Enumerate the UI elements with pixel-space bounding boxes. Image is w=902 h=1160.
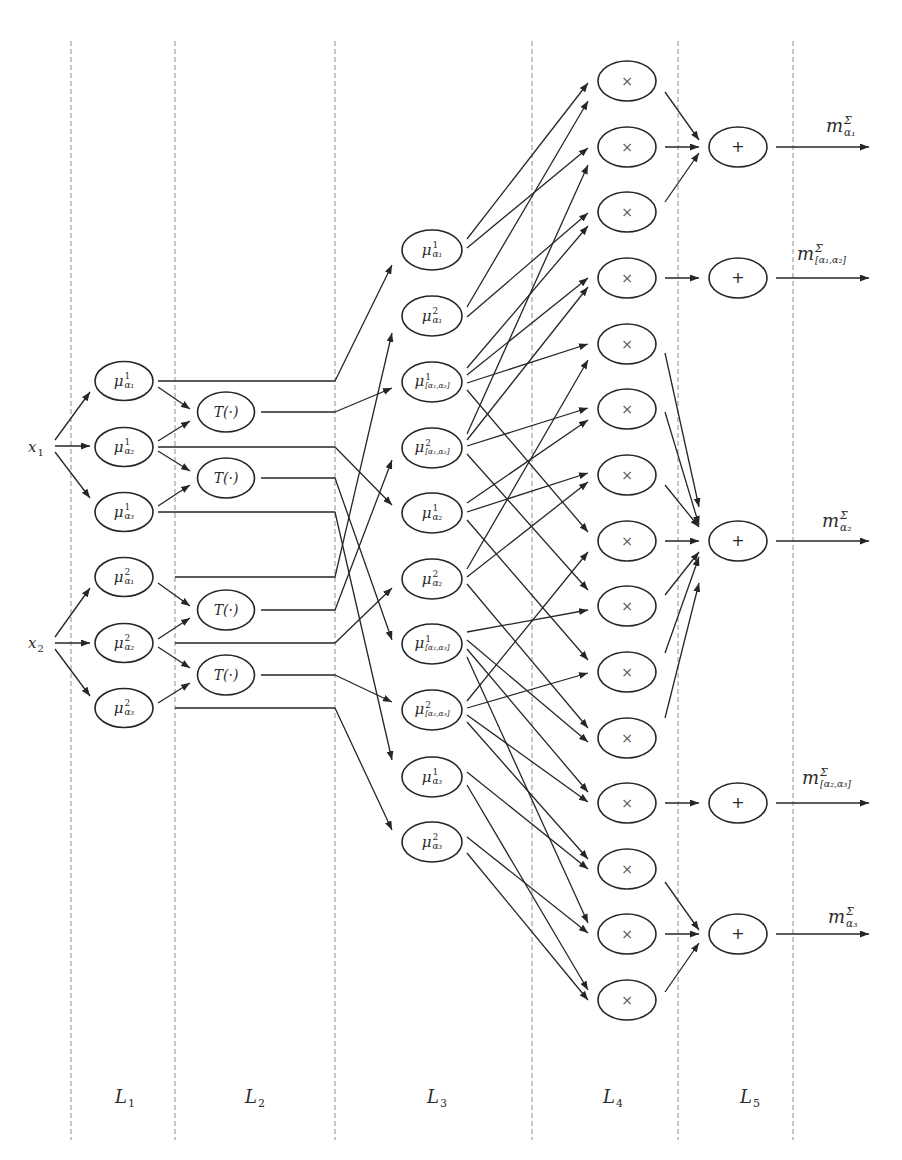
arrow-mu2-a2-to-t4 [158,647,190,668]
product-node-ellipse [598,586,656,626]
transform-node-ellipse [198,590,255,630]
arrow-mu1-a2-to-t1 [158,421,190,441]
fuzzy-node-mu2-a2 [95,624,153,663]
fuzzy-node-n1 [402,296,462,336]
fuzzy-node-n4 [402,493,462,533]
arrow-mu1-a3-to-n8 [158,512,392,760]
arrow-x2-to-mu2-a3 [55,649,90,696]
product-node-ellipse [598,258,656,298]
product-node-ellipse [598,980,656,1020]
arrow-n2-to-p3 [467,278,588,375]
sum-node-ellipse [709,258,767,298]
arrow-n8-to-p12 [467,772,588,869]
arrow-t3-to-n3 [261,460,392,610]
arrow-mu2-a3-to-n9 [175,708,392,830]
sum-node-ellipse [709,127,767,167]
arrow-n4-to-p6 [467,473,588,512]
edges-L1-to-L2 [158,387,190,703]
fuzzy-node-n9 [402,822,462,862]
product-node-ellipse [598,324,656,364]
fuzzy-node-n5 [402,559,462,599]
arrow-n0-to-p1 [467,148,588,248]
product-node-ellipse [598,783,656,823]
product-node-ellipse [598,521,656,561]
product-node-p1 [598,127,656,167]
product-node-p10 [598,718,656,758]
arrow-mu2-a1-to-n1 [175,333,392,577]
arrow-p0-to-q0 [665,92,699,140]
fuzzy-node-ellipse [402,362,462,402]
arrow-x1-to-mu1-a3 [55,452,90,498]
arrow-mu2-a1-to-t3 [158,583,190,606]
fuzzy-node-ellipse [402,559,462,599]
arrow-n9-to-p13 [467,837,588,933]
sum-node-ellipse [709,914,767,954]
product-node-p13 [598,914,656,954]
fuzzy-node-n3 [402,428,462,468]
arrow-p2-to-q0 [665,153,699,202]
sum-node-q1 [709,258,767,298]
product-node-ellipse [598,61,656,101]
transform-node-ellipse [198,458,255,498]
sum-node-q2 [709,521,767,561]
arrow-n5-to-p6 [467,482,588,577]
arrow-p8-to-q2 [665,552,699,595]
product-node-p8 [598,586,656,626]
fuzzy-node-mu1-a1 [95,362,153,401]
arrow-mu2-a3-to-t4 [158,683,190,703]
product-node-p0 [598,61,656,101]
fuzzy-node-ellipse [95,624,153,663]
sum-node-q3 [709,783,767,823]
fuzzy-node-mu2-a1 [95,558,153,597]
fuzzy-node-mu2-a3 [95,689,153,728]
product-node-ellipse [598,718,656,758]
edges-inputs-to-L1 [55,392,90,696]
product-node-p12 [598,849,656,889]
arrow-x1-to-mu1-a1 [55,392,90,440]
sum-node-q0 [709,127,767,167]
arrow-t4-to-n7 [261,675,392,702]
product-node-ellipse [598,192,656,232]
sum-node-ellipse [709,783,767,823]
transform-node-t4 [198,655,255,695]
fuzzy-node-ellipse [402,428,462,468]
sum-node-ellipse [709,521,767,561]
arrow-mu1-a2-to-n4 [158,447,392,505]
diagram-canvas [0,0,902,1160]
fuzzy-node-ellipse [402,230,462,270]
arrow-n8-to-p14 [467,785,588,990]
product-node-ellipse [598,652,656,692]
fuzzy-node-n7 [402,690,462,730]
edges-L3-to-L4 [467,83,588,1000]
fuzzy-node-n6 [402,624,462,664]
product-node-ellipse [598,849,656,889]
arrow-t1-to-n2 [261,388,392,412]
fuzzy-node-ellipse [402,624,462,664]
arrow-p12-to-q4 [665,882,699,930]
fuzzy-node-ellipse [402,690,462,730]
arrow-n6-to-p11 [467,649,588,792]
arrow-n3-to-p5 [467,408,588,446]
sum-node-q4 [709,914,767,954]
arrow-t2-to-n6 [261,478,392,640]
edges-L4-to-L5 [665,92,699,992]
product-node-p4 [598,324,656,364]
fuzzy-node-mu1-a3 [95,493,153,532]
fuzzy-node-n2 [402,362,462,402]
arrow-n0-to-p0 [467,83,588,239]
transform-node-t1 [198,392,255,432]
arrow-n6-to-p8 [467,610,588,632]
product-node-p9 [598,652,656,692]
edges-L5-to-outputs [776,147,869,934]
fuzzy-node-ellipse [402,493,462,533]
fuzzy-node-mu1-a2 [95,428,153,467]
product-node-ellipse [598,914,656,954]
fuzzy-node-ellipse [95,493,153,532]
arrow-n5-to-p4 [467,360,588,569]
product-node-p2 [598,192,656,232]
product-node-ellipse [598,389,656,429]
product-node-p11 [598,783,656,823]
arrow-n9-to-p14 [467,853,588,1000]
transform-node-ellipse [198,655,255,695]
arrow-n2-to-p2 [467,226,588,368]
